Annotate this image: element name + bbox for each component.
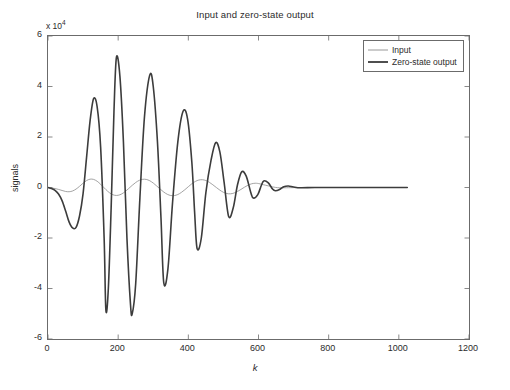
x-axis-label: k [0, 362, 510, 373]
x-tick-label: 200 [94, 343, 140, 353]
plot-svg [48, 36, 469, 339]
y-tick-label: -2 [8, 231, 42, 241]
y-axis-exponent-power: 4 [62, 19, 66, 26]
x-tick-label: 800 [305, 343, 351, 353]
x-tick-label: 400 [164, 343, 210, 353]
x-tick-label: 0 [24, 343, 70, 353]
y-tick-label: 6 [8, 29, 42, 39]
y-tick-label: -6 [8, 332, 42, 342]
series-line-zero-state-output [48, 56, 407, 316]
plot-area [47, 35, 470, 340]
data-series-layer [48, 56, 407, 316]
legend-line-icon-input [367, 47, 389, 53]
y-tick-label: -4 [8, 282, 42, 292]
legend-label-zero-state-output: Zero-state output [389, 57, 457, 67]
legend-item-zero-state-output[interactable]: Zero-state output [367, 56, 459, 68]
y-axis-exponent-multiplier: x 104 [46, 19, 66, 31]
y-axis-label: signals [10, 148, 20, 208]
figure-canvas: Input and zero-state output x 104 signal… [0, 0, 510, 390]
chart-title: Input and zero-state output [0, 9, 510, 20]
legend-label-input: Input [389, 45, 411, 55]
x-tick-label: 1000 [375, 343, 421, 353]
y-tick-label: 2 [8, 130, 42, 140]
legend-item-input[interactable]: Input [367, 44, 459, 56]
x-tick-label: 600 [235, 343, 281, 353]
x-tick-label: 1200 [445, 343, 491, 353]
y-axis-exponent-base: x 10 [46, 21, 62, 31]
legend-line-icon-zero-state-output [367, 59, 389, 65]
legend[interactable]: Input Zero-state output [363, 40, 464, 72]
y-tick-label: 0 [8, 181, 42, 191]
y-tick-label: 4 [8, 80, 42, 90]
